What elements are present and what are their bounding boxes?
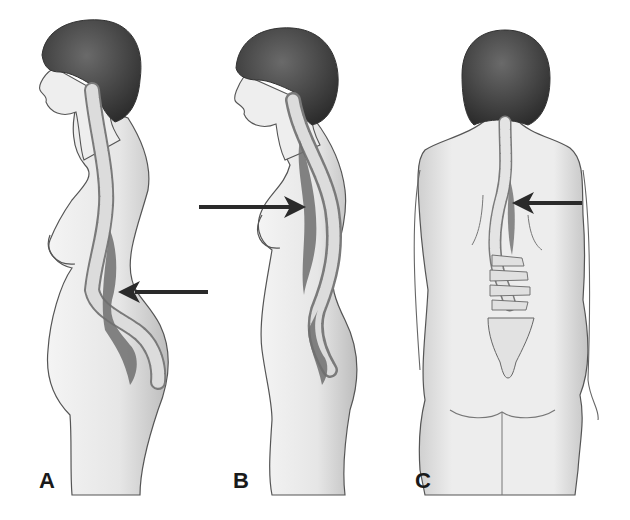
figure-a-lordosis <box>40 20 208 495</box>
arrow-b-icon <box>199 196 306 218</box>
panel-label-a: A <box>39 470 55 492</box>
figure-c-scoliosis <box>414 30 598 495</box>
illustration-canvas <box>0 0 630 520</box>
panel-label-c: C <box>415 470 431 492</box>
figure-b-kyphosis <box>199 28 357 495</box>
figure-c-hair <box>462 30 550 125</box>
spinal-curvature-figure: A B C <box>0 0 630 520</box>
panel-label-b: B <box>233 470 249 492</box>
